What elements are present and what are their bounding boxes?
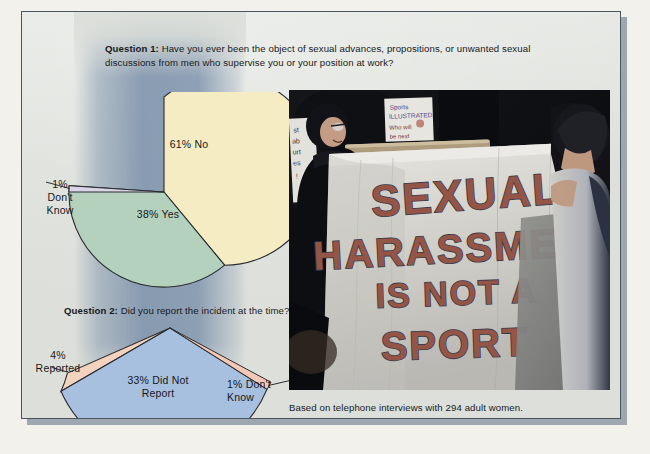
question-2-body: Did you report the incident at the time? (118, 305, 290, 316)
figure-panel: Question 1: Have you ever been the objec… (21, 11, 621, 419)
question-1-label: Question 1: (105, 43, 159, 54)
question-2-label: Question 2: (64, 305, 118, 316)
question-1-text: Question 1: Have you ever been the objec… (105, 42, 551, 69)
pie2-label-dont-know: 1% Don't Know (227, 378, 297, 404)
pie2-label-did-not-report: 33% Did Not Report (105, 374, 211, 400)
figure-caption: Based on telephone interviews with 294 a… (289, 402, 619, 413)
pie1-label-yes: 38% Yes (118, 208, 198, 221)
pie1-label-no: 61% No (149, 138, 229, 151)
question-1-body: Have you ever been the object of sexual … (105, 43, 530, 68)
photo-illustration: stab urtes ! Sports ILLUSTRATED Who will… (289, 90, 610, 390)
pie1-label-dont-know: 1% Don't Know (28, 178, 92, 217)
pie2-label-reported: 4% Reported (24, 349, 92, 375)
protest-photograph: stab urtes ! Sports ILLUSTRATED Who will… (289, 90, 610, 390)
